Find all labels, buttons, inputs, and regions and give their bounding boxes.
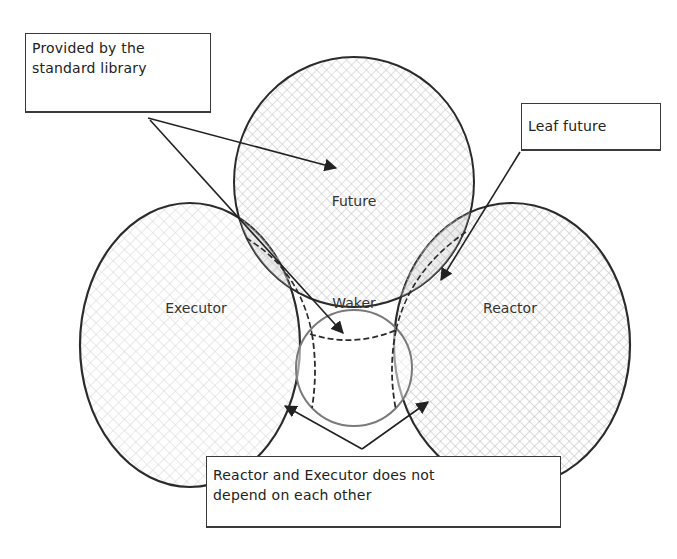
future-label: Future [332, 193, 377, 209]
leaf-future-note-text: Leaf future [528, 116, 654, 136]
std-library-note-line1: Provided by the [32, 38, 204, 58]
std-library-note-line2: standard library [32, 58, 204, 78]
reactor-label: Reactor [483, 300, 537, 316]
waker-label: Waker [332, 295, 376, 311]
std-library-note: Provided by the standard library [25, 33, 211, 113]
leaf-future-note: Leaf future [521, 103, 661, 151]
independence-note-line2: depend on each other [213, 485, 554, 505]
independence-note: Reactor and Executor does not depend on … [206, 456, 561, 528]
independence-note-line1: Reactor and Executor does not [213, 465, 554, 485]
executor-label: Executor [165, 300, 227, 316]
